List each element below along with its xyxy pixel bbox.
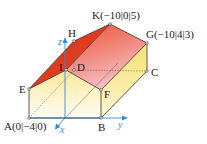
y-axis-arrow-icon: [122, 116, 128, 121]
label-K: K(−10|0|5): [92, 9, 140, 22]
axis-label-y: y: [117, 119, 123, 130]
z-axis-arrow-icon: [63, 37, 68, 43]
vertex-G: [146, 42, 149, 45]
house-diagram: K(−10|0|5) G(−10|4|3) H I D C E F A(0|−4…: [0, 0, 207, 144]
vertex-F: [100, 89, 103, 92]
vertex-K: [109, 23, 112, 26]
label-E: E: [19, 83, 26, 95]
label-F: F: [104, 88, 110, 100]
vertex-B: [100, 117, 103, 120]
label-I: I: [59, 61, 63, 73]
vertex-H: [73, 40, 76, 43]
vertex-C: [146, 70, 149, 73]
axis-label-z: z: [57, 36, 62, 47]
axis-label-x: x: [59, 124, 65, 135]
vertex-E: [28, 88, 31, 91]
label-G: G(−10|4|3): [146, 28, 194, 41]
label-B: B: [98, 121, 105, 133]
vertex-I: [65, 69, 68, 72]
label-A: A(0|−4|0): [4, 120, 47, 133]
vertex-D: [73, 69, 76, 72]
label-D: D: [77, 61, 85, 73]
label-H: H: [68, 27, 76, 39]
label-C: C: [151, 66, 158, 78]
vertex-A: [28, 117, 31, 120]
